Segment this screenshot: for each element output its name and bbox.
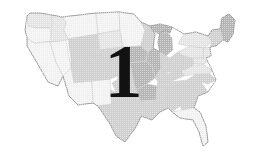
state-washington <box>27 13 53 28</box>
state-newyork <box>178 32 212 48</box>
figure-number-overlay: 1 <box>99 32 147 110</box>
us-map-figure: 1 <box>0 0 254 163</box>
state-maryland <box>192 58 208 64</box>
state-florida <box>172 108 208 146</box>
state-alabama <box>167 86 180 112</box>
